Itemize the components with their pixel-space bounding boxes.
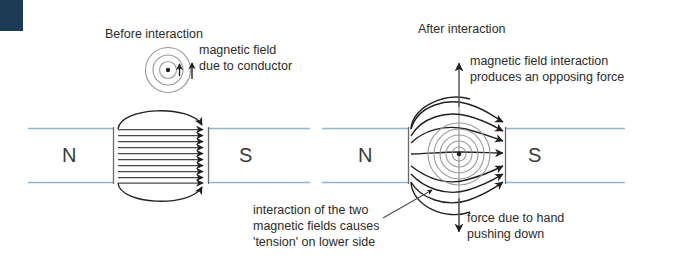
after-tension-caption-line3: 'tension' on lower side bbox=[253, 235, 375, 249]
after-conductor-current-dot bbox=[457, 152, 462, 157]
diagram-canvas: Before interaction magnetic field due to… bbox=[0, 0, 678, 261]
after-north-pole-label: N bbox=[358, 144, 372, 166]
before-conductor-caption-line1: magnetic field bbox=[199, 43, 276, 57]
after-tension-caption-line2: magnetic fields causes bbox=[253, 219, 379, 233]
before-north-pole-label: N bbox=[62, 144, 76, 166]
after-panel-title: After interaction bbox=[418, 22, 506, 36]
after-south-pole-label: S bbox=[528, 144, 541, 166]
after-top-caption-line2: produces an opposing force bbox=[470, 70, 624, 84]
after-tension-leader-line bbox=[383, 190, 432, 218]
after-hand-force-caption-line2: pushing down bbox=[467, 227, 544, 241]
before-panel-title: Before interaction bbox=[105, 27, 203, 41]
after-top-caption-line1: magnetic field interaction bbox=[470, 54, 608, 68]
after-tension-caption-line1: interaction of the two bbox=[253, 203, 368, 217]
before-conductor-caption-line2: due to conductor bbox=[199, 59, 292, 73]
before-magnet-field-lines bbox=[118, 130, 203, 184]
before-conductor-current-dot bbox=[166, 68, 170, 72]
before-south-pole-label: S bbox=[239, 144, 252, 166]
after-distorted-field-lines bbox=[411, 97, 503, 214]
after-hand-force-caption-line1: force due to hand bbox=[467, 211, 564, 225]
before-field-boundary-arcs bbox=[118, 111, 202, 201]
